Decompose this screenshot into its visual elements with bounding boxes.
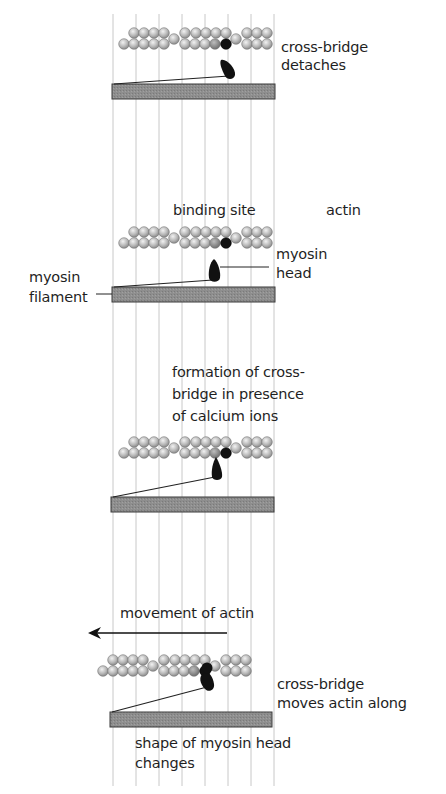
actin-bead bbox=[231, 666, 242, 677]
actin-bead bbox=[190, 39, 201, 50]
actin-bead bbox=[189, 666, 200, 677]
actin-bead bbox=[252, 238, 263, 249]
myosin-filament bbox=[112, 287, 275, 302]
actin-filament bbox=[119, 28, 273, 50]
actin-bead bbox=[200, 39, 211, 50]
actin-bead bbox=[210, 448, 221, 459]
actin-bead bbox=[190, 448, 201, 459]
label-shape-change-1: shape of myosin head bbox=[135, 735, 291, 752]
actin-bead bbox=[262, 39, 273, 50]
actin-bead bbox=[210, 238, 221, 249]
actin-bead bbox=[128, 666, 139, 677]
actin-bead bbox=[159, 448, 170, 459]
actin-filament bbox=[119, 437, 273, 459]
label-actin: actin bbox=[326, 202, 361, 219]
panel-rest bbox=[96, 227, 275, 302]
myosin-filament bbox=[111, 497, 274, 512]
label-cross-bridge-detaches-2: detaches bbox=[281, 57, 346, 74]
actin-bead bbox=[139, 238, 150, 249]
actin-bead bbox=[179, 666, 190, 677]
actin-bead bbox=[129, 39, 140, 50]
label-formation-2: bridge in presence bbox=[172, 386, 304, 403]
actin-bead bbox=[180, 448, 191, 459]
actin-bead bbox=[159, 238, 170, 249]
panel-powerstroke bbox=[98, 655, 272, 727]
label-formation-1: formation of cross- bbox=[172, 364, 305, 381]
label-movement-of-actin: movement of actin bbox=[120, 605, 254, 622]
actin-bead bbox=[252, 39, 263, 50]
binding-site bbox=[221, 238, 232, 249]
actin-bead bbox=[241, 666, 252, 677]
actin-bead bbox=[242, 39, 253, 50]
actin-bead bbox=[180, 39, 191, 50]
actin-bead bbox=[119, 448, 130, 459]
actin-bead bbox=[180, 238, 191, 249]
actin-bead bbox=[139, 448, 150, 459]
label-cross-bridge-moves-1: cross-bridge bbox=[277, 676, 364, 693]
actin-bead bbox=[149, 448, 160, 459]
actin-bead bbox=[210, 39, 221, 50]
actin-filament bbox=[119, 227, 273, 249]
actin-bead bbox=[98, 666, 109, 677]
label-shape-change-2: changes bbox=[135, 755, 195, 772]
label-myosin-head-2: head bbox=[276, 265, 311, 282]
myosin-filament bbox=[112, 84, 275, 99]
binding-site bbox=[221, 39, 232, 50]
actin-bead bbox=[159, 39, 170, 50]
actin-bead bbox=[159, 666, 170, 677]
actin-bead bbox=[139, 39, 150, 50]
actin-bead bbox=[221, 666, 232, 677]
actin-bead bbox=[169, 666, 180, 677]
myosin-head bbox=[114, 259, 220, 287]
label-binding-site: binding site bbox=[173, 202, 255, 219]
actin-bead bbox=[190, 238, 201, 249]
panel-attach bbox=[111, 437, 274, 512]
actin-bead bbox=[262, 448, 273, 459]
actin-bead bbox=[149, 39, 160, 50]
actin-bead bbox=[242, 448, 253, 459]
myosin-head bbox=[113, 457, 222, 497]
myosin-filament bbox=[110, 712, 272, 727]
actin-bead bbox=[242, 238, 253, 249]
actin-bead bbox=[119, 238, 130, 249]
actin-bead bbox=[129, 238, 140, 249]
actin-bead bbox=[200, 238, 211, 249]
actin-bead bbox=[108, 666, 119, 677]
actin-bead bbox=[118, 666, 129, 677]
label-formation-3: of calcium ions bbox=[172, 408, 278, 425]
actin-bead bbox=[129, 448, 140, 459]
binding-site bbox=[221, 448, 232, 459]
label-myosin-filament-1: myosin bbox=[29, 269, 80, 286]
label-myosin-filament-2: filament bbox=[29, 289, 87, 306]
actin-bead bbox=[262, 238, 273, 249]
actin-bead bbox=[200, 448, 211, 459]
label-myosin-head-1: myosin bbox=[276, 246, 327, 263]
actin-bead bbox=[119, 39, 130, 50]
label-cross-bridge-moves-2: moves actin along bbox=[277, 695, 407, 712]
label-cross-bridge-detaches-1: cross-bridge bbox=[281, 39, 368, 56]
actin-bead bbox=[252, 448, 263, 459]
actin-bead bbox=[149, 238, 160, 249]
movement-arrow bbox=[88, 627, 227, 639]
myosin-head bbox=[114, 60, 235, 84]
actin-bead bbox=[138, 666, 149, 677]
